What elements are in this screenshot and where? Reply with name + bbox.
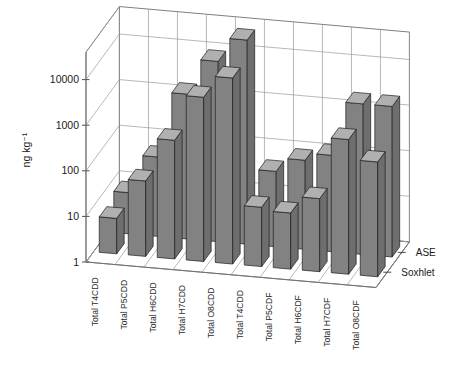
bar-soxhlet-6-side (291, 203, 298, 269)
category-label-5: Total T4CDD (236, 290, 246, 339)
bar-soxhlet-1-front (128, 179, 145, 256)
ytick-label-100: 100 (61, 164, 79, 176)
gridline-horizontal-left-10000 (86, 34, 119, 80)
category-label-0: Total T4CDD (91, 277, 101, 326)
legend-label-ase: ASE (416, 247, 436, 258)
bar-soxhlet-6-front (273, 212, 290, 270)
bar-soxhlet-8-side (349, 129, 356, 274)
bar-soxhlet-2-front (157, 139, 174, 259)
bar-soxhlet-5-front (244, 206, 261, 267)
category-label-8: Total H7CDF (323, 298, 333, 347)
category-label-4: Total O8CDD (207, 287, 217, 338)
bar-ase-9-side (392, 96, 399, 257)
bar-chart-3d: 110100100010000ng kg⁻¹Total T4CDDTotal P… (0, 0, 463, 375)
legend-label-soxhlet: Soxhlet (401, 267, 435, 278)
bar-soxhlet-3-side (204, 87, 211, 261)
ytick-label-1000: 1000 (56, 119, 80, 131)
bar-soxhlet-1-side (146, 171, 153, 257)
category-label-6: Total P5CDF (265, 293, 275, 342)
bar-soxhlet-5-side (262, 197, 269, 267)
y-axis-title: ng kg⁻¹ (20, 132, 32, 167)
chart-figure: 110100100010000ng kg⁻¹Total T4CDDTotal P… (0, 0, 463, 375)
bar-soxhlet-7-front (302, 197, 319, 272)
gridline-horizontal-left-1000 (86, 80, 119, 126)
bar-soxhlet-8-front (331, 138, 348, 274)
bar-soxhlet-4-front (215, 77, 232, 265)
bar-soxhlet-9-side (378, 152, 385, 277)
bar-soxhlet-3-front (186, 96, 203, 262)
ytick-label-10000: 10000 (50, 73, 79, 85)
bar-soxhlet-2-side (175, 130, 182, 259)
ytick-label-1: 1 (73, 256, 79, 268)
category-label-9: Total O8CDF (352, 300, 362, 350)
ytick-label-10: 10 (67, 210, 79, 222)
gridline-horizontal-left-100 (86, 125, 119, 171)
bar-soxhlet-0-front (99, 217, 116, 254)
bar-soxhlet-4-side (233, 68, 240, 264)
bar-soxhlet-9-front (360, 160, 377, 276)
category-label-3: Total H7CDD (178, 285, 188, 335)
left-wall-top-edge (86, 7, 119, 53)
bar-soxhlet-7-side (320, 188, 327, 271)
category-label-7: Total H6CDF (294, 295, 304, 344)
category-label-2: Total H6CDD (149, 282, 159, 332)
category-label-1: Total P5CDD (120, 280, 130, 330)
